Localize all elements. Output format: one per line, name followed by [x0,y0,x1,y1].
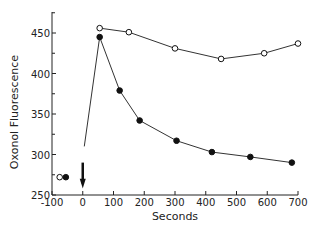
svg-text:250: 250 [31,190,50,201]
svg-text:300: 300 [31,150,50,161]
y-axis-label: Oxonol Fluorescence [8,55,21,170]
chart: -100010020030040050060070025030035040045… [0,0,322,234]
data-point [248,154,254,160]
data-point [126,29,132,35]
data-point [97,25,103,31]
svg-text:300: 300 [165,197,184,208]
data-markers [57,25,301,180]
axes [52,12,298,195]
data-point [117,88,123,94]
svg-text:100: 100 [104,197,123,208]
svg-text:500: 500 [227,197,246,208]
svg-text:450: 450 [31,28,50,39]
data-point [172,46,178,52]
svg-text:600: 600 [258,197,277,208]
data-point [97,34,103,40]
svg-text:700: 700 [288,197,307,208]
svg-text:200: 200 [135,197,154,208]
annotations [80,163,86,189]
svg-text:400: 400 [196,197,215,208]
x-axis-label: Seconds [152,210,198,223]
data-point [295,41,301,47]
data-point [174,138,180,144]
series-lines [84,28,298,162]
data-point [63,174,69,180]
data-point [209,149,215,155]
arrow-down-icon [80,179,86,189]
svg-text:350: 350 [31,109,50,120]
data-point [137,118,143,124]
data-point [218,56,224,62]
svg-text:400: 400 [31,69,50,80]
data-point [57,174,63,180]
data-point [261,50,267,56]
svg-text:0: 0 [80,197,86,208]
data-point [289,160,295,166]
